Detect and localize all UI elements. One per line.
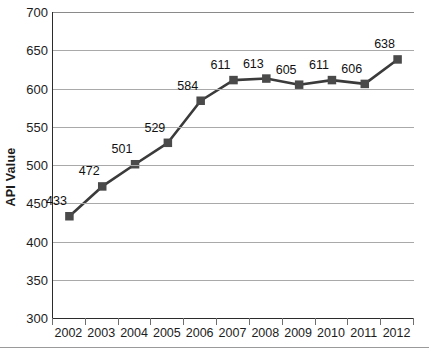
x-axis-tick	[380, 318, 381, 325]
x-axis-tick-label: 2007	[219, 326, 247, 340]
x-axis-tick-label: 2002	[55, 326, 83, 340]
y-axis-tick-label: 650	[2, 43, 48, 58]
data-point-marker	[393, 55, 402, 64]
data-point-marker	[164, 139, 173, 148]
y-axis-tick-label: 600	[2, 81, 48, 96]
bottom-divider	[0, 347, 429, 348]
x-axis-tick	[413, 318, 414, 325]
y-axis-tick-label: 300	[2, 311, 48, 326]
x-axis-tick-label: 2012	[383, 326, 411, 340]
gridline	[53, 280, 414, 281]
x-axis-tick	[52, 318, 53, 325]
x-axis-tick	[216, 318, 217, 325]
y-axis-tick-label: 450	[2, 196, 48, 211]
gridline	[53, 242, 414, 243]
x-axis-tick-label: 2006	[186, 326, 214, 340]
x-axis-tick-label: 2003	[87, 326, 115, 340]
x-axis-tick-label: 2004	[120, 326, 148, 340]
gridline	[53, 50, 414, 51]
data-point-marker	[196, 96, 205, 105]
y-axis-tick-label: 550	[2, 119, 48, 134]
gridline	[53, 165, 414, 166]
data-point-marker	[98, 182, 107, 191]
x-axis-tick-label: 2011	[350, 326, 377, 340]
x-axis-tick	[315, 318, 316, 325]
y-axis-tick-label: 400	[2, 234, 48, 249]
y-axis-tick-label: 500	[2, 158, 48, 173]
data-point-marker	[361, 80, 370, 89]
x-axis-tick	[183, 318, 184, 325]
gridline	[53, 12, 414, 13]
x-axis-tick-label: 2005	[153, 326, 181, 340]
plot-area	[52, 12, 414, 319]
x-axis-tick	[118, 318, 119, 325]
data-point-marker	[328, 76, 337, 85]
gridline	[53, 127, 414, 128]
y-axis-tick-label: 350	[2, 272, 48, 287]
x-axis-tick	[150, 318, 151, 325]
gridline	[53, 89, 414, 90]
data-point-marker	[65, 212, 74, 221]
x-axis-tick	[249, 318, 250, 325]
y-axis-tick-label: 700	[2, 5, 48, 20]
x-axis-tick-label: 2008	[251, 326, 279, 340]
data-point-marker	[229, 76, 238, 85]
x-axis-tick	[85, 318, 86, 325]
x-axis-tick-label: 2009	[284, 326, 312, 340]
x-axis-ticks	[52, 318, 413, 325]
api-value-line-chart: API Value 700650600550500450400350300 20…	[0, 0, 429, 354]
x-axis-tick-label: 2010	[317, 326, 345, 340]
x-axis-tick	[347, 318, 348, 325]
x-axis-tick	[282, 318, 283, 325]
data-point-marker	[262, 74, 271, 83]
y-axis-tick-labels: 700650600550500450400350300	[0, 0, 48, 354]
x-axis-tick-labels: 2002200320042005200620072008200920102011…	[52, 326, 413, 344]
gridline	[53, 203, 414, 204]
